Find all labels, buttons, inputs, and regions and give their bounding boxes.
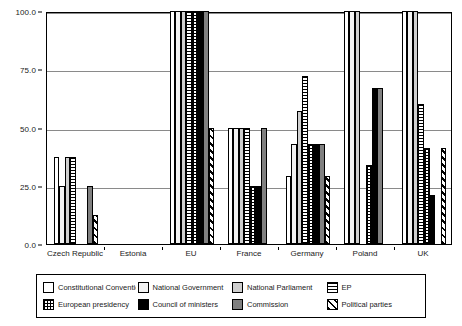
chart-legend: Constitutional ConventionNational Govern… xyxy=(36,274,426,318)
legend-swatch-icon xyxy=(232,282,243,293)
x-tick-mark xyxy=(394,247,395,250)
x-tick-label: Czech Republic xyxy=(47,249,103,258)
legend-label: Constitutional Convention xyxy=(58,284,136,292)
bar-group xyxy=(105,13,163,244)
bar xyxy=(325,176,331,244)
bar-group xyxy=(221,13,279,244)
legend-item[interactable]: Political parties xyxy=(327,299,420,310)
bar xyxy=(209,128,215,245)
legend-label: European presidency xyxy=(58,301,129,309)
x-tick-label: Poland xyxy=(353,249,378,258)
bar xyxy=(377,88,383,244)
legend-label: Political parties xyxy=(342,301,392,309)
y-tick-label: 50.0 xyxy=(20,124,36,133)
legend-swatch-icon xyxy=(43,282,54,293)
legend-label: National Parliament xyxy=(247,284,312,292)
x-tick-label: Estonia xyxy=(120,249,147,258)
legend-item[interactable]: National Parliament xyxy=(232,282,325,293)
y-tick-mark xyxy=(38,128,42,129)
legend-swatch-icon xyxy=(138,299,149,310)
x-tick-label: France xyxy=(237,249,262,258)
legend-item[interactable]: Council of ministers xyxy=(138,299,231,310)
y-tick-label: 25.0 xyxy=(20,182,36,191)
bar xyxy=(261,128,267,245)
bar-chart: 0.025.050.075.0100.0 Czech RepublicEston… xyxy=(0,0,462,326)
x-tick-mark xyxy=(220,247,221,250)
legend-label: National Government xyxy=(153,284,224,292)
bar xyxy=(430,195,436,244)
bar-group xyxy=(47,13,105,244)
x-axis: Czech RepublicEstoniaEUFranceGermanyPola… xyxy=(46,247,452,263)
x-tick-mark xyxy=(104,247,105,250)
legend-label: Commission xyxy=(247,301,288,309)
legend-swatch-icon xyxy=(232,299,243,310)
y-tick-label: 75.0 xyxy=(20,66,36,75)
bar-group xyxy=(279,13,337,244)
bar-group xyxy=(395,13,453,244)
y-tick-label: 0.0 xyxy=(25,241,36,250)
legend-item[interactable]: EP xyxy=(327,282,420,293)
bar xyxy=(355,11,361,244)
bar xyxy=(93,215,99,244)
plot-area xyxy=(46,12,452,245)
y-tick-mark xyxy=(38,70,42,71)
y-tick-mark xyxy=(38,245,42,246)
legend-item[interactable]: Commission xyxy=(232,299,325,310)
y-tick-mark xyxy=(38,186,42,187)
y-tick-label: 100.0 xyxy=(15,8,36,17)
legend-swatch-icon xyxy=(43,299,54,310)
y-axis: 0.025.050.075.0100.0 xyxy=(0,12,42,245)
x-tick-mark xyxy=(278,247,279,250)
x-tick-label: Germany xyxy=(291,249,324,258)
x-tick-mark xyxy=(336,247,337,250)
legend-swatch-icon xyxy=(327,282,338,293)
legend-item[interactable]: European presidency xyxy=(43,299,136,310)
legend-swatch-icon xyxy=(138,282,149,293)
legend-label: Council of ministers xyxy=(153,301,218,309)
legend-item[interactable]: Constitutional Convention xyxy=(43,282,136,293)
bar xyxy=(70,157,76,244)
x-tick-mark xyxy=(162,247,163,250)
legend-swatch-icon xyxy=(327,299,338,310)
x-tick-label: EU xyxy=(185,249,196,258)
y-tick-mark xyxy=(38,12,42,13)
legend-item[interactable]: National Government xyxy=(138,282,231,293)
bar-group xyxy=(337,13,395,244)
bar-group xyxy=(163,13,221,244)
bar xyxy=(441,148,447,244)
x-tick-label: UK xyxy=(417,249,428,258)
legend-label: EP xyxy=(342,284,352,292)
